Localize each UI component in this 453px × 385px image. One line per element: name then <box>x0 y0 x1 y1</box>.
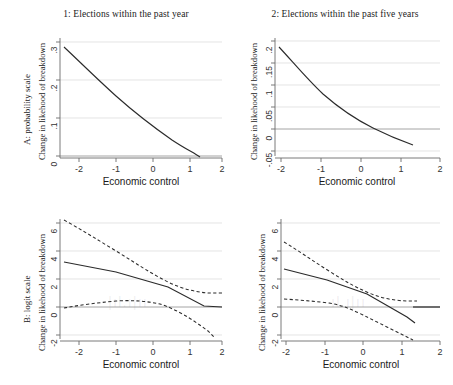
panel-1-xtick-0: -2 <box>69 164 89 174</box>
panel-2-xtick-1: -1 <box>311 164 331 174</box>
series-marginal-effect <box>279 47 413 145</box>
panel-3-xtick-0: -2 <box>69 347 89 357</box>
panel-2-xtick-4: 2 <box>430 164 450 174</box>
panel-2-plot <box>227 0 453 193</box>
panel-4-xtick-1: -1 <box>315 347 335 357</box>
figure-canvas: 1: Elections within the past year A: pro… <box>0 0 453 385</box>
panel-3: B: logit scale Change in likehood of bre… <box>0 193 227 385</box>
series-marginal-effect <box>64 47 200 157</box>
panel-1-xtick-1: -1 <box>106 164 126 174</box>
panel-3-xtick-2: 0 <box>143 347 163 357</box>
panel-1-xtick-3: 1 <box>180 164 200 174</box>
panel-4-xtick-4: 2 <box>430 347 450 357</box>
panel-2-xtick-0: -2 <box>271 164 291 174</box>
panel-4-xlabel: Economic control <box>296 359 426 370</box>
panel-1: 1: Elections within the past year A: pro… <box>0 0 227 193</box>
series-upper-ci <box>64 220 222 293</box>
panel-2-xtick-3: 1 <box>391 164 411 174</box>
panel-2: 2: Elections within the past five years … <box>227 0 453 193</box>
panel-4-xtick-2: 0 <box>353 347 373 357</box>
panel-4-xtick-0: -2 <box>276 347 296 357</box>
series-lower-ci <box>284 299 413 340</box>
panel-3-xtick-3: 1 <box>180 347 200 357</box>
panel-4: Change in likehood of breakdown 6 4 2 0 … <box>227 193 453 385</box>
panel-4-xtick-3: 1 <box>392 347 412 357</box>
panel-1-xtick-2: 0 <box>143 164 163 174</box>
panel-3-xtick-1: -1 <box>106 347 126 357</box>
panel-3-xlabel: Economic control <box>76 359 206 370</box>
panel-4-plot <box>227 193 453 385</box>
series-lower-ci <box>64 301 214 337</box>
panel-2-xlabel: Economic control <box>292 176 422 187</box>
series-marginal-effect <box>284 269 415 323</box>
panel-1-xlabel: Economic control <box>76 176 206 187</box>
series-marginal-effect <box>64 262 222 307</box>
panel-2-xtick-2: 0 <box>351 164 371 174</box>
